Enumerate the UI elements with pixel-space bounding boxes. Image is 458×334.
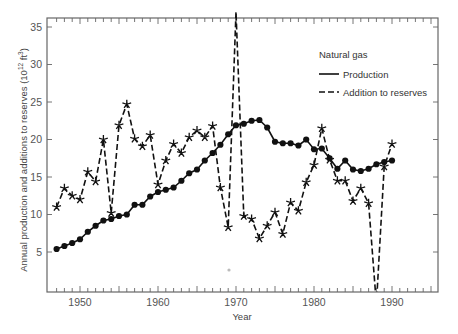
circle-marker-icon — [186, 170, 192, 176]
x-tick-label: 1990 — [380, 296, 404, 308]
star-marker-icon — [341, 176, 350, 184]
circle-marker-icon — [124, 211, 130, 217]
y-tick-label: 35 — [30, 21, 42, 33]
circle-marker-icon — [202, 157, 208, 163]
star-marker-icon — [52, 202, 61, 210]
legend-title: Natural gas — [319, 49, 368, 60]
circle-marker-icon — [225, 131, 231, 137]
star-marker-icon — [388, 139, 397, 147]
circle-marker-icon — [256, 117, 262, 123]
star-marker-icon — [294, 206, 303, 214]
star-marker-icon — [107, 208, 116, 216]
circle-marker-icon — [342, 157, 348, 163]
star-marker-icon — [169, 139, 178, 147]
circle-marker-icon — [272, 139, 278, 145]
star-marker-icon — [76, 195, 85, 203]
circle-marker-icon — [295, 142, 301, 148]
star-marker-icon — [239, 211, 248, 219]
circle-marker-icon — [210, 150, 216, 156]
x-tick-label: 1970 — [224, 296, 248, 308]
circle-marker-icon — [288, 140, 294, 146]
circle-marker-icon — [233, 122, 239, 128]
y-tick-label: 20 — [30, 133, 42, 145]
circle-marker-icon — [334, 166, 340, 172]
y-axis-title: Annual production and additions to reser… — [17, 48, 29, 272]
circle-marker-icon — [319, 145, 325, 151]
circle-marker-icon — [85, 229, 91, 235]
y-tick-label: 15 — [30, 171, 42, 183]
circle-marker-icon — [155, 189, 161, 195]
circle-marker-icon — [116, 213, 122, 219]
x-tick-label: 1960 — [146, 296, 170, 308]
y-tick-labels: 5101520253035 — [30, 21, 42, 258]
circle-marker-icon — [69, 240, 75, 246]
star-marker-icon — [356, 184, 365, 192]
circle-marker-icon — [303, 136, 309, 142]
star-marker-icon — [60, 184, 69, 192]
star-marker-icon — [310, 160, 319, 168]
legend-entry-additions: Addition to reserves — [343, 87, 427, 98]
star-marker-icon — [271, 208, 280, 216]
y-tick-label: 5 — [36, 246, 42, 258]
y-tick-label: 30 — [30, 58, 42, 70]
x-tick-label: 1980 — [302, 296, 326, 308]
circle-marker-icon — [373, 161, 379, 167]
star-marker-icon — [247, 214, 256, 222]
star-marker-icon — [138, 142, 147, 150]
circle-marker-icon — [358, 168, 364, 174]
circle-marker-icon — [147, 193, 153, 199]
circle-marker-icon — [100, 217, 106, 223]
circle-marker-icon — [366, 166, 372, 172]
x-axis-title: Year — [232, 311, 251, 322]
star-marker-icon — [349, 196, 358, 204]
circle-marker-icon — [217, 142, 223, 148]
circle-marker-icon — [163, 187, 169, 193]
circle-marker-icon — [194, 166, 200, 172]
stray-dot — [227, 268, 230, 271]
production-series — [54, 117, 396, 252]
line-chart: 5101520253035 19501960197019801990 Year … — [0, 0, 458, 334]
y-tick-label: 10 — [30, 208, 42, 220]
legend-entry-production: Production — [343, 69, 388, 80]
circle-marker-icon — [93, 223, 99, 229]
x-tick-labels: 19501960197019801990 — [68, 296, 404, 308]
circle-marker-icon — [241, 121, 247, 127]
circle-marker-icon — [77, 236, 83, 242]
star-marker-icon — [333, 176, 342, 184]
circle-marker-icon — [132, 202, 138, 208]
circle-marker-icon — [61, 243, 67, 249]
star-marker-icon — [68, 191, 77, 199]
y-tick-label: 25 — [30, 96, 42, 108]
legend: Natural gas Production Addition to reser… — [319, 49, 427, 98]
circle-marker-icon — [178, 178, 184, 184]
circle-marker-icon — [139, 202, 145, 208]
circle-marker-icon — [54, 246, 60, 252]
star-marker-icon — [278, 229, 287, 237]
series-line — [57, 120, 392, 249]
star-marker-icon — [154, 180, 163, 188]
star-marker-icon — [263, 221, 272, 229]
star-marker-icon — [255, 234, 264, 242]
circle-marker-icon — [280, 140, 286, 146]
circle-marker-icon — [389, 157, 395, 163]
circle-marker-icon — [249, 118, 255, 124]
circle-marker-icon — [350, 166, 356, 172]
circle-marker-icon — [171, 184, 177, 190]
x-tick-label: 1950 — [68, 296, 92, 308]
star-marker-icon — [224, 223, 233, 231]
circle-marker-icon — [264, 124, 270, 130]
